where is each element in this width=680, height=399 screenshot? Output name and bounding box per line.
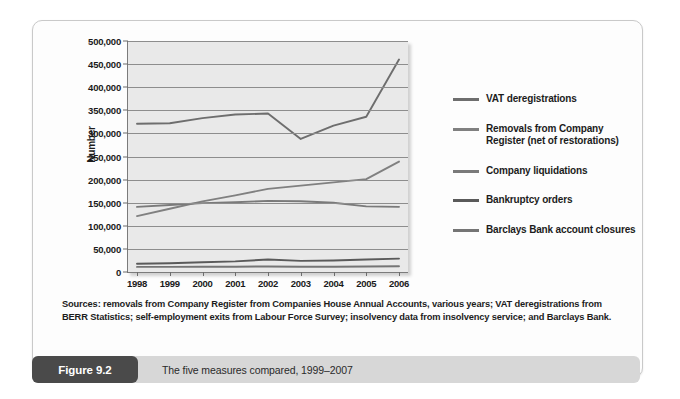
y-tick-mark <box>123 156 128 157</box>
gridline <box>128 64 408 65</box>
y-tick-mark <box>123 248 128 249</box>
y-tick-label: 400,000 <box>88 82 121 93</box>
y-tick-mark <box>123 202 128 203</box>
gridline <box>128 133 408 134</box>
x-tick-mark <box>399 272 400 276</box>
gridline <box>128 87 408 88</box>
legend-item-label: Removals from Company Register (net of r… <box>486 123 638 148</box>
y-tick-label: 350,000 <box>88 105 121 116</box>
y-tick-label: 500,000 <box>88 36 121 47</box>
plot-area: 500,000450,000400,000350,000300,000250,0… <box>127 41 408 273</box>
figure-number-badge: Figure 9.2 <box>32 356 138 383</box>
figure-caption-text: The five measures compared, 1999–2007 <box>162 364 353 376</box>
legend-item[interactable]: Barclays Bank account closures <box>453 224 638 237</box>
gridline <box>128 157 408 158</box>
gridline <box>128 110 408 111</box>
legend-item-label: VAT deregistrations <box>486 93 577 106</box>
x-tick-label: 2000 <box>193 278 213 289</box>
y-tick-label: 200,000 <box>88 174 121 185</box>
x-tick-label: 2001 <box>225 278 245 289</box>
chart-legend: VAT deregistrationsRemovals from Company… <box>453 93 638 253</box>
legend-item-label: Barclays Bank account closures <box>486 224 635 237</box>
y-tick-mark <box>123 225 128 226</box>
x-tick-mark <box>268 272 269 276</box>
sources-note: Sources: removals from Company Register … <box>62 298 622 324</box>
x-tick-label: 2004 <box>324 278 344 289</box>
legend-item-label: Bankruptcy orders <box>486 194 572 207</box>
legend-item-label: Company liquidations <box>486 165 587 178</box>
y-axis-title: Number <box>86 105 97 185</box>
x-tick-mark <box>366 272 367 276</box>
legend-line-icon <box>453 128 479 131</box>
y-tick-mark <box>123 41 128 42</box>
legend-item[interactable]: Company liquidations <box>453 165 638 178</box>
gridline <box>128 226 408 227</box>
x-tick-label: 2002 <box>258 278 278 289</box>
figure-caption-bar: Figure 9.2 The five measures compared, 1… <box>32 356 640 383</box>
x-tick-label: 2005 <box>356 278 376 289</box>
y-tick-mark <box>123 272 128 273</box>
legend-item[interactable]: VAT deregistrations <box>453 93 638 106</box>
x-tick-mark <box>301 272 302 276</box>
y-tick-mark <box>123 87 128 88</box>
legend-line-icon <box>453 170 479 173</box>
plot-inner: 500,000450,000400,000350,000300,000250,0… <box>128 41 408 272</box>
legend-item[interactable]: Removals from Company Register (net of r… <box>453 123 638 148</box>
y-tick-label: 150,000 <box>88 197 121 208</box>
y-tick-label: 300,000 <box>88 128 121 139</box>
series-line <box>137 59 399 138</box>
x-tick-label: 2006 <box>389 278 409 289</box>
legend-line-icon <box>453 199 479 202</box>
y-tick-mark <box>123 110 128 111</box>
series-line <box>137 162 399 217</box>
y-tick-label: 0 <box>116 267 121 278</box>
x-tick-mark <box>203 272 204 276</box>
x-tick-label: 1999 <box>160 278 180 289</box>
y-tick-mark <box>123 133 128 134</box>
x-tick-mark <box>137 272 138 276</box>
gridline <box>128 180 408 181</box>
x-tick-label: 2003 <box>291 278 311 289</box>
gridline <box>128 249 408 250</box>
series-line <box>137 259 399 264</box>
y-tick-label: 250,000 <box>88 151 121 162</box>
y-tick-mark <box>123 179 128 180</box>
figure-panel: Number 500,000450,000400,000350,000300,0… <box>32 20 643 378</box>
y-tick-label: 50,000 <box>93 243 121 254</box>
legend-line-icon <box>453 229 479 232</box>
series-line <box>137 266 399 267</box>
y-tick-mark <box>123 64 128 65</box>
y-tick-label: 450,000 <box>88 59 121 70</box>
legend-item[interactable]: Bankruptcy orders <box>453 194 638 207</box>
y-tick-label: 100,000 <box>88 220 121 231</box>
x-tick-mark <box>170 272 171 276</box>
gridline <box>128 41 408 42</box>
legend-line-icon <box>453 98 479 101</box>
gridline <box>128 203 408 204</box>
x-tick-mark <box>235 272 236 276</box>
x-tick-label: 1998 <box>127 278 147 289</box>
x-tick-mark <box>334 272 335 276</box>
